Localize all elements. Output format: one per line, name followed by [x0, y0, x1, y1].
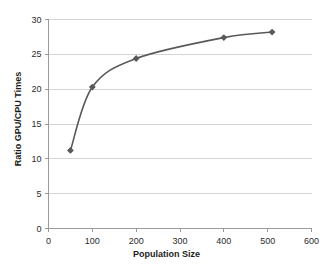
gridlines-group: [49, 20, 312, 229]
x-tick-label: 600: [299, 236, 325, 246]
data-point-marker: [269, 29, 276, 36]
x-tick-label: 200: [123, 236, 149, 246]
x-tick-marks-group: [49, 229, 312, 233]
y-tick-marks-group: [45, 20, 49, 229]
chart-plot-area: [0, 0, 333, 270]
series-markers-ratio-gpu-cpu: [67, 29, 275, 154]
data-point-marker: [220, 34, 227, 41]
data-point-marker: [67, 147, 74, 154]
x-tick-label: 300: [167, 236, 193, 246]
y-tick-label: 5: [16, 189, 42, 199]
y-tick-label: 0: [16, 224, 42, 234]
series-line-ratio-gpu-cpu: [70, 32, 272, 150]
x-axis-title: Population Size: [0, 249, 333, 259]
x-tick-label: 400: [211, 236, 237, 246]
x-tick-label: 500: [255, 236, 281, 246]
chart-container: 051015202530 0100200300400500600 Populat…: [0, 0, 333, 270]
y-tick-label: 30: [16, 15, 42, 25]
data-point-marker: [133, 55, 140, 62]
x-tick-label: 100: [79, 236, 105, 246]
y-axis-title: Ratio GPU/CPU Times: [13, 49, 23, 189]
x-tick-label: 0: [36, 236, 62, 246]
